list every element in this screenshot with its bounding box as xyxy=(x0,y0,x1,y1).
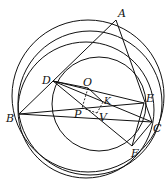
diagram-canvas: A B C D E F O K P V xyxy=(0,0,166,182)
label-f: F xyxy=(130,147,139,160)
label-v: V xyxy=(99,111,108,124)
segment-bc xyxy=(19,114,152,122)
label-c: C xyxy=(153,122,162,135)
label-e: E xyxy=(145,92,154,105)
segment-ok xyxy=(88,88,103,102)
label-k: K xyxy=(103,96,112,106)
label-p: P xyxy=(73,108,82,121)
label-d: D xyxy=(41,74,51,87)
geometry-figure: A B C D E F O K P V xyxy=(0,0,166,182)
label-b: B xyxy=(5,112,14,125)
label-a: A xyxy=(117,7,126,20)
label-o: O xyxy=(83,76,92,89)
